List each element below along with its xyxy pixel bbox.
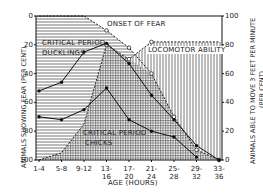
ducklings-point	[127, 62, 130, 65]
y-right-tick-label: 0	[225, 156, 229, 164]
chicks-point	[37, 115, 40, 118]
y-left-tick-label: 100	[20, 156, 33, 164]
x-tick-label: 29-32	[187, 165, 207, 181]
plot-layers	[36, 16, 222, 160]
chicks-point	[195, 155, 198, 158]
chicks-point	[60, 118, 63, 121]
ducklings-point	[172, 118, 175, 121]
locomotor-point	[127, 57, 131, 61]
x-tick-label: 33-36	[209, 165, 229, 181]
x-tick-label: 1-4	[29, 165, 49, 173]
y-axis-right-label-line2: (PER CENT)	[258, 71, 263, 108]
locomotor-point	[150, 40, 154, 44]
y-right-tick-label: 80	[225, 41, 234, 49]
ducklings-point	[60, 81, 63, 84]
x-tick-label: 25-28	[164, 165, 184, 181]
chicks-point	[127, 118, 130, 121]
onset-point	[150, 72, 154, 76]
y-right-tick-label: 60	[225, 70, 234, 78]
y-right-tick-label: 40	[225, 98, 234, 106]
onset-point	[127, 46, 131, 50]
x-tick-label: 21-24	[142, 165, 162, 181]
annotation-critical-period-chicks-2: CHICKS	[85, 139, 112, 147]
x-tick-label: 13-16	[97, 165, 117, 181]
annotation-critical-period-ducklings-1: CRITICAL PERIOD	[42, 39, 105, 47]
y-left-tick-label: 80	[24, 127, 33, 135]
chicks-point	[172, 135, 175, 138]
y-left-tick-label: 20	[24, 41, 33, 49]
x-tick-label: 9-12	[74, 165, 94, 173]
y-left-tick-label: 40	[24, 70, 33, 78]
y-axis-right-label-line1: ANIMALS ABLE TO MOVE 3 FEET PER MINUTE	[249, 18, 257, 164]
y-axis-left-label: ANIMALS SHOWING FEAR (PER CENT)	[20, 46, 28, 168]
ducklings-point	[195, 144, 198, 147]
annotation-onset-of-fear: ONSET OF FEAR	[107, 20, 166, 28]
ducklings-point	[150, 94, 153, 97]
ducklings-point	[37, 89, 40, 92]
chicks-point	[82, 108, 85, 111]
chicks-point	[105, 86, 108, 89]
annotation-critical-period-ducklings-2: DUCKLINGS	[42, 49, 85, 57]
x-tick-label: 17-20	[119, 165, 139, 181]
onset-point	[195, 148, 199, 152]
annotation-critical-period-chicks-1: CRITICAL PERIOD	[83, 129, 146, 137]
x-tick-label: 5-8	[52, 165, 72, 173]
annotation-locomotor-ability: LOCOMOTOR ABILITY	[147, 46, 227, 54]
onset-point	[105, 29, 109, 33]
chicks-point	[150, 130, 153, 133]
y-left-tick-label: 60	[24, 98, 33, 106]
y-right-tick-label: 20	[225, 127, 234, 135]
y-right-tick-label: 100	[225, 12, 238, 20]
y-left-tick-label: 0	[29, 12, 33, 20]
